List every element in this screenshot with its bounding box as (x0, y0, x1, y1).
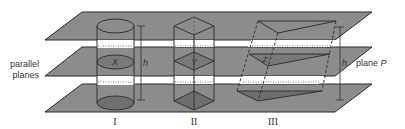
cross-section-x-label: X (111, 57, 119, 67)
solid-3-label: III (268, 116, 278, 127)
plane-p-label: plane P (356, 58, 387, 68)
cross-section-y-label: Y (191, 57, 198, 67)
parallel-planes-label-line2: planes (12, 70, 39, 80)
height-label-3: h (342, 58, 347, 68)
parallel-planes-diagram: parallel planes plane P h h X Y Z I II I… (0, 0, 405, 129)
parallel-planes-label-line1: parallel (10, 59, 39, 69)
solid-2-label: II (191, 116, 198, 127)
solid-1-label: I (113, 116, 116, 127)
plane-p-text: plane (356, 58, 381, 68)
height-label-1: h (143, 58, 148, 68)
plane-p-italic: P (381, 58, 387, 68)
top-plane (45, 12, 372, 40)
